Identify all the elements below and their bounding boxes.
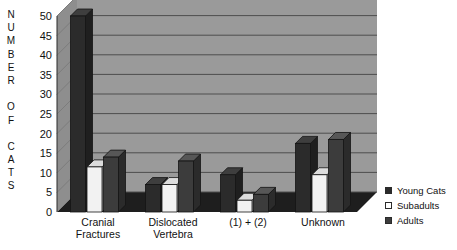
bar-front-face	[329, 139, 344, 212]
x-axis-category-label-line1: Dislocated	[148, 216, 197, 228]
x-axis-category-label-line2: Fractures	[55, 228, 141, 240]
bar-front-face	[254, 194, 269, 212]
bar-side-face	[344, 132, 351, 212]
bar-front-face	[296, 143, 311, 212]
filled-square-swatch	[385, 217, 392, 224]
x-axis-category-label-line2: Vertebra	[130, 228, 216, 240]
x-axis-category-label: Unknown	[280, 216, 366, 228]
bar-front-face	[104, 157, 119, 212]
legend-item: Young Cats	[385, 184, 457, 197]
bar-side-face	[194, 154, 201, 212]
bar-front-face	[146, 185, 161, 212]
legend-item: Adults	[385, 214, 457, 227]
legend-item-label: Subadults	[397, 201, 439, 211]
bar-front-face	[312, 175, 327, 212]
bar-chart: NUMBER OF CATS 05101520253035404550 Cran…	[0, 0, 457, 250]
bar-adults	[179, 154, 201, 212]
x-axis-category-label-line1: Cranial	[81, 216, 114, 228]
bar-front-face	[162, 185, 177, 212]
x-axis-category-label: DislocatedVertebra	[130, 216, 216, 240]
bar-front-face	[87, 167, 102, 212]
chart-legend: Young CatsSubadultsAdults	[385, 184, 457, 229]
bar-adults	[104, 150, 126, 212]
x-axis-category-label: (1) + (2)	[205, 216, 291, 228]
bar-side-face	[119, 150, 126, 212]
legend-item: Subadults	[385, 199, 457, 212]
bar-front-face	[221, 175, 236, 212]
legend-item-label: Adults	[397, 216, 423, 226]
hollow-square-swatch	[385, 202, 392, 209]
legend-item-label: Young Cats	[397, 186, 446, 196]
x-axis-category-label-line1: (1) + (2)	[229, 216, 267, 228]
filled-square-swatch	[385, 187, 392, 194]
bar-front-face	[71, 16, 86, 212]
bar-adults	[329, 132, 351, 212]
x-axis-category-label: CranialFractures	[55, 216, 141, 240]
bar-front-face	[179, 161, 194, 212]
bar-adults	[254, 187, 276, 212]
bar-front-face	[237, 200, 252, 212]
x-axis-category-label-line1: Unknown	[301, 216, 345, 228]
